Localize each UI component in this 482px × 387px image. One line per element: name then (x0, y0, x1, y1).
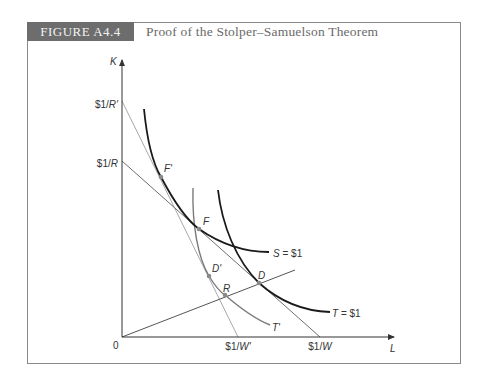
origin-label: 0 (113, 340, 119, 351)
point-d-prime-label: D' (212, 263, 222, 274)
y-tick-label-r: $1/R (97, 158, 118, 169)
isoquant-s-label: S = $1 (273, 248, 303, 259)
point-d-prime (207, 274, 212, 279)
capital-labor-ray (122, 270, 295, 337)
point-f-prime-label: F' (164, 163, 173, 174)
x-tick-label-w: $1/W (308, 341, 333, 352)
point-f-prime (159, 175, 164, 180)
point-d-label: D (258, 270, 265, 281)
point-d (257, 281, 262, 286)
isoquant-t-label: T = $1 (332, 308, 361, 319)
isocost-line-r-prime-w-prime (122, 101, 238, 337)
point-f-label: F (203, 216, 210, 227)
x-axis-label: L (390, 343, 396, 354)
diagram: K L 0 $1/R' $1/R $1/W' $1/W S = $1 T = $… (0, 0, 482, 387)
isoquant-t-prime (193, 188, 270, 325)
point-f (197, 227, 202, 232)
y-axis-label: K (110, 56, 118, 67)
y-tick-label-r-prime: $1/R' (95, 99, 119, 110)
isoquant-s (144, 109, 269, 252)
x-tick-label-w-prime: $1/W' (225, 341, 251, 352)
isoquant-t-prime-label: T' (272, 322, 281, 333)
point-r-label: R (223, 283, 230, 294)
